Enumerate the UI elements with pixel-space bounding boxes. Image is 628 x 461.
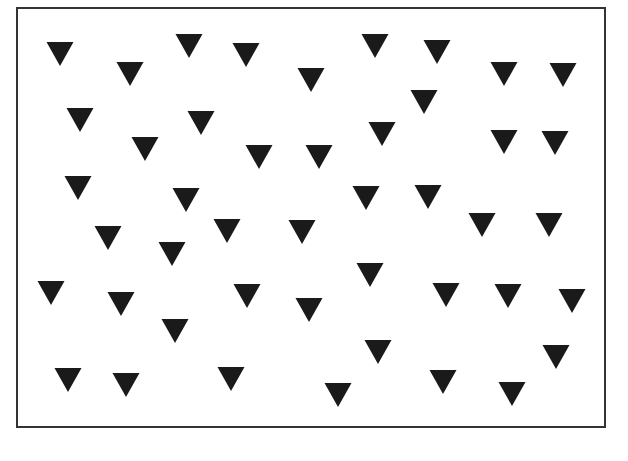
- triangle-down-icon: [325, 383, 352, 407]
- triangle-down-icon: [95, 226, 122, 250]
- triangle-down-icon: [162, 319, 189, 343]
- triangle-field: [0, 0, 628, 461]
- triangle-down-icon: [176, 34, 203, 58]
- triangle-down-icon: [469, 213, 496, 237]
- triangle-down-icon: [47, 42, 74, 66]
- triangle-down-icon: [298, 68, 325, 92]
- triangle-down-icon: [38, 281, 65, 305]
- triangle-down-icon: [499, 382, 526, 406]
- triangle-down-icon: [357, 263, 384, 287]
- triangle-down-icon: [159, 242, 186, 266]
- triangle-down-icon: [132, 137, 159, 161]
- triangle-down-icon: [542, 131, 569, 155]
- triangle-down-icon: [411, 90, 438, 114]
- triangle-down-icon: [369, 122, 396, 146]
- triangle-down-icon: [108, 292, 135, 316]
- triangle-down-icon: [430, 370, 457, 394]
- triangle-down-icon: [117, 62, 144, 86]
- triangle-down-icon: [67, 108, 94, 132]
- triangle-down-icon: [173, 188, 200, 212]
- triangle-down-icon: [234, 284, 261, 308]
- triangle-down-icon: [424, 40, 451, 64]
- triangle-down-icon: [214, 219, 241, 243]
- triangle-down-icon: [536, 213, 563, 237]
- triangle-down-icon: [306, 145, 333, 169]
- triangle-down-icon: [353, 186, 380, 210]
- triangle-down-icon: [246, 145, 273, 169]
- triangle-down-icon: [289, 220, 316, 244]
- triangle-down-icon: [65, 176, 92, 200]
- triangle-down-icon: [415, 185, 442, 209]
- triangle-down-icon: [433, 283, 460, 307]
- triangle-down-icon: [491, 62, 518, 86]
- triangle-down-icon: [543, 345, 570, 369]
- triangle-down-icon: [495, 284, 522, 308]
- triangle-down-icon: [365, 340, 392, 364]
- triangle-down-icon: [113, 373, 140, 397]
- triangle-down-icon: [233, 43, 260, 67]
- triangle-down-icon: [188, 111, 215, 135]
- triangle-down-icon: [362, 34, 389, 58]
- triangle-down-icon: [296, 298, 323, 322]
- triangle-down-icon: [550, 63, 577, 87]
- triangle-down-icon: [491, 130, 518, 154]
- triangle-down-icon: [55, 368, 82, 392]
- triangle-down-icon: [559, 289, 586, 313]
- triangle-down-icon: [218, 367, 245, 391]
